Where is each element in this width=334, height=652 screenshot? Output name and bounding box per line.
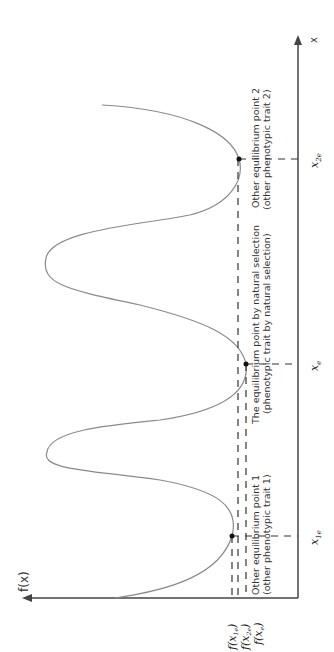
tick-fx1e: f(x1e): [226, 624, 239, 651]
tick-x2e: x2e: [308, 153, 323, 168]
fx-axis-arrow-icon: [22, 594, 32, 602]
equilibrium-point-1: [230, 534, 235, 539]
annotation-natural: The equilibrium point by natural selecti…: [250, 225, 272, 425]
equilibrium-point-natural: [244, 362, 249, 367]
x-axis-label: x: [308, 37, 319, 43]
tick-fx2e: f(x2e): [239, 624, 252, 651]
fitness-curve: [45, 105, 246, 598]
chart-canvas: f(x) x x1e xe x2e f(x1e) f(x2e) f(xe) Ot…: [0, 0, 334, 652]
annotation-eq1: Other equilibrium point 1 (other phenoty…: [250, 474, 272, 595]
svg-text:(phenotypic trait by natural s: (phenotypic trait by natural selection): [261, 233, 272, 414]
svg-text:(other phenotypic trait 1): (other phenotypic trait 1): [261, 474, 272, 595]
svg-text:(other phenotypic trait 2): (other phenotypic trait 2): [261, 89, 272, 210]
annotation-eq2: Other equilibrium point 2 (other phenoty…: [250, 88, 272, 210]
tick-fxe: f(xe): [252, 623, 265, 646]
svg-text:The equilibrium point by natur: The equilibrium point by natural selecti…: [250, 225, 261, 425]
y-axis-label: f(x): [17, 571, 31, 592]
tick-x1e: x1e: [308, 530, 323, 545]
x-axis-arrow-icon: [294, 35, 302, 45]
svg-text:Other equilibrium point 2: Other equilibrium point 2: [250, 88, 261, 208]
tick-xe: xe: [308, 361, 323, 371]
svg-text:Other equilibrium point 1: Other equilibrium point 1: [250, 475, 261, 595]
equilibrium-point-2: [237, 157, 242, 162]
